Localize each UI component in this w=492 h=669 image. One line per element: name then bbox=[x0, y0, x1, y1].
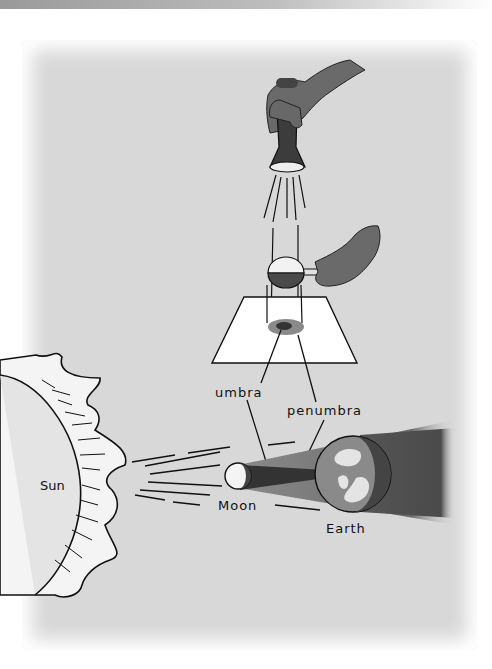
moon-label: Moon bbox=[218, 498, 257, 513]
light-rays bbox=[264, 175, 305, 222]
umbra-spot bbox=[276, 322, 292, 330]
hand-holding-ball-icon bbox=[268, 226, 380, 288]
hand-flashlight-icon bbox=[267, 60, 365, 172]
sun-icon bbox=[0, 354, 126, 597]
earth-label: Earth bbox=[326, 521, 366, 536]
earth-icon bbox=[315, 436, 391, 512]
umbra-label: umbra bbox=[215, 385, 262, 400]
moon-icon bbox=[225, 463, 251, 489]
sun-label: Sun bbox=[40, 478, 65, 493]
penumbra-label: penumbra bbox=[287, 403, 362, 418]
eclipse-diagram: umbra penumbra Sun bbox=[0, 0, 492, 669]
white-card bbox=[212, 285, 357, 363]
